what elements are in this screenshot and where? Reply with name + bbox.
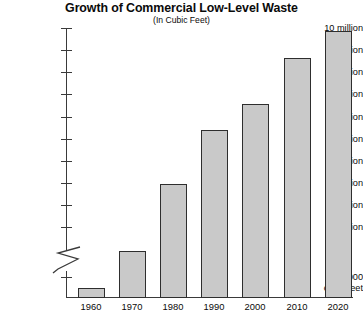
y-tick-9-million [61,50,72,51]
x-tick-label-1960: 1960 [71,301,111,312]
y-tick-1-million [61,227,72,228]
x-tick-label-2000: 2000 [235,301,275,312]
x-tick-label-1980: 1980 [153,301,193,312]
x-tick-label-1970: 1970 [112,301,152,312]
x-tick-label-1990: 1990 [194,301,234,312]
bar-2000 [242,104,269,298]
y-tick-8-million [61,72,72,73]
y-tick-2-million [61,205,72,206]
chart-container: Growth of Commercial Low-Level Waste (In… [0,0,363,323]
bar-1970 [119,251,146,298]
plot-area: 10 million 9 million 8 million 7 million… [0,0,363,323]
y-tick-3-million [61,183,72,184]
axis-break-zigzag-icon [52,246,82,274]
y-tick-10-million [61,28,72,29]
bar-1960 [78,288,105,298]
bar-1990 [201,130,228,298]
y-tick-5-million [61,139,72,140]
bar-1980 [160,184,187,298]
y-tick-7-million [61,94,72,95]
y-tick-50000 [61,277,72,278]
y-tick-4-million [61,161,72,162]
x-tick-label-2010: 2010 [277,301,317,312]
bar-2010 [284,58,311,298]
bar-2020 [325,31,352,298]
y-tick-6-million [61,117,72,118]
y-axis-line-lower [66,271,67,298]
x-tick-label-2020: 2020 [318,301,358,312]
